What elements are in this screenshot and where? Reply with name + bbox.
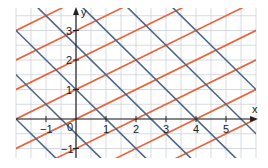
- orange-line: [0, 75, 268, 168]
- y-tick-label: 2: [66, 54, 72, 66]
- orange-line: [0, 0, 268, 134]
- coordinate-plot: −112345−11230xy: [0, 0, 268, 168]
- y-axis-label: y: [81, 6, 87, 18]
- x-tick-label: 1: [103, 123, 109, 135]
- origin-label: 0: [67, 121, 73, 133]
- x-tick-label: 5: [223, 123, 229, 135]
- x-axis-label: x: [252, 103, 258, 115]
- x-tick-label: −1: [40, 123, 53, 135]
- blue-line: [0, 0, 268, 163]
- y-tick-label: 3: [66, 25, 72, 37]
- orange-line: [0, 0, 268, 75]
- y-tick-label: 1: [66, 84, 72, 96]
- orange-line: [0, 0, 268, 45]
- x-tick-label: 3: [163, 123, 169, 135]
- x-axis-arrow-icon: [250, 116, 258, 122]
- line-families: [0, 0, 268, 168]
- x-tick-label: 2: [133, 123, 139, 135]
- y-tick-label: −1: [61, 143, 74, 155]
- x-tick-label: 4: [193, 123, 199, 135]
- y-axis-arrow-icon: [73, 7, 79, 15]
